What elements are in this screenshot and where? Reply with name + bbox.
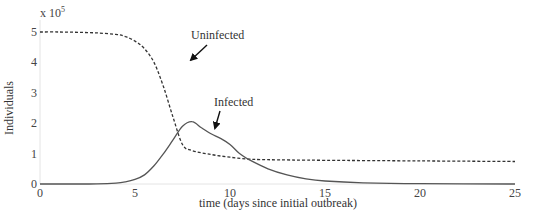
- infected-label: Infected: [214, 95, 253, 109]
- x-tick-label: 20: [414, 186, 426, 200]
- infected-annotation: Infected: [214, 95, 253, 128]
- x-tick-label: 5: [132, 186, 138, 200]
- y-tick-labels: 012345: [31, 25, 37, 191]
- uninfected-series-line: [40, 32, 515, 162]
- uninfected-arrow-icon: [191, 45, 207, 60]
- infected-series-line: [40, 122, 515, 184]
- epidemic-chart: 012345 0510152025 x 105 Individuals time…: [0, 0, 539, 220]
- y-axis-label: Individuals: [2, 81, 16, 135]
- y-tick-label: 5: [31, 25, 37, 39]
- uninfected-label: Uninfected: [191, 28, 244, 42]
- y-tick-label: 3: [31, 86, 37, 100]
- y-tick-label: 2: [31, 116, 37, 130]
- infected-arrow-icon: [215, 111, 220, 128]
- x-axis-label: time (days since initial outbreak): [199, 196, 357, 210]
- y-tick-label: 1: [31, 147, 37, 161]
- y-tick-label: 4: [31, 55, 37, 69]
- x-tick-label: 0: [37, 186, 43, 200]
- x-tick-label: 25: [509, 186, 521, 200]
- uninfected-annotation: Uninfected: [191, 28, 244, 60]
- y-multiplier-label: x 105: [40, 5, 65, 20]
